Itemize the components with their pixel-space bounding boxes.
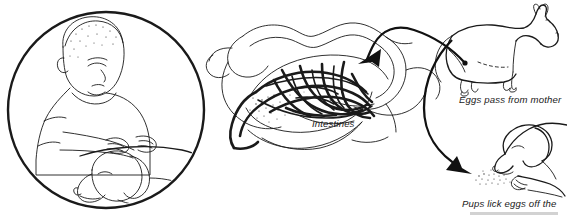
clipped-caption-line (470, 212, 558, 215)
dog-mouth (80, 196, 100, 199)
adult-dog-belly (446, 36, 516, 83)
intestine-loop-top (243, 23, 412, 44)
adult-dog-foreleg-back (503, 82, 510, 90)
adult-dog-hindleg-outer (461, 80, 469, 93)
inset-circle-border (8, 12, 204, 208)
intestines-panel: Intestines (206, 23, 440, 150)
puppy-ground-line (528, 190, 562, 197)
intestine-fold-d (352, 137, 388, 142)
child-mouth (92, 85, 104, 87)
intestines-label: Intestines (312, 118, 355, 129)
child-eyebrow (88, 58, 107, 60)
puppy-eye (512, 146, 524, 148)
child-finger-3 (139, 141, 153, 144)
arrow-eggs-to-puppy (424, 40, 472, 174)
dog-body (150, 178, 212, 212)
puppy-front-leg (518, 176, 565, 196)
adult-dog-panel (435, 4, 558, 96)
adult-dog-chest (513, 41, 516, 72)
dog-head-outline (92, 151, 142, 201)
eggs-pass-label: Eggs pass from mother (459, 94, 562, 105)
child-petting-dog-panel (8, 12, 214, 212)
adult-dog-flank-line (478, 62, 508, 67)
intestine-fold-c (386, 104, 396, 132)
puppy-ear (523, 128, 549, 167)
child-head-outline (63, 17, 124, 96)
child-torso (36, 88, 150, 175)
intestine-loop-left (228, 36, 268, 77)
roundworm-mass (230, 62, 374, 149)
adult-dog-head (516, 36, 541, 44)
arrow-mother-to-intestines (358, 28, 468, 67)
roundworm-transmission-figure: Intestines (0, 0, 567, 215)
child-shoulder-line (44, 117, 66, 121)
child-sleeve-fold (38, 142, 60, 146)
child-finger-1 (108, 144, 124, 147)
intestine-loop-far-right (406, 68, 440, 99)
child-eye (88, 63, 106, 66)
puppy-panel (475, 123, 567, 197)
adult-dog-hindleg-inner (471, 82, 478, 92)
dog-muzzle (77, 174, 105, 202)
child-nose (101, 70, 105, 82)
pups-lick-label: Pups lick eggs off the (462, 198, 557, 209)
puppy-toe-1 (516, 180, 527, 185)
adult-dog-body (452, 5, 558, 47)
intestine-loop-left-outer (209, 48, 232, 61)
child-ear (57, 58, 68, 73)
puppy-shoulder (542, 161, 556, 179)
child-hair-stipple (70, 24, 117, 57)
intestine-loop-top-inner (250, 35, 381, 48)
dog-eye (98, 172, 112, 174)
